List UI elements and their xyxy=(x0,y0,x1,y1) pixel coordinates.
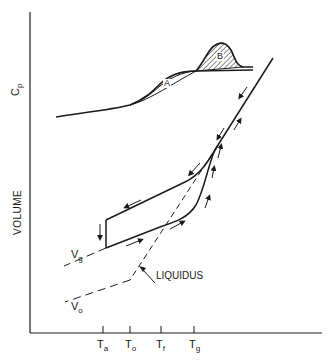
cp-baseline-tail xyxy=(196,70,253,71)
region-a-label: A xyxy=(163,79,171,88)
axes xyxy=(30,12,322,333)
cooling-curve xyxy=(106,145,218,220)
tick-label-tf: Tf xyxy=(156,338,165,353)
reheating-curve xyxy=(106,145,218,248)
arrow-up-4 xyxy=(205,197,209,208)
cp-main: C xyxy=(9,88,21,96)
cp-axis-label: Cp xyxy=(9,84,24,96)
tick-label-to: To xyxy=(125,338,136,353)
tick-ta-sub: a xyxy=(104,344,108,353)
tick-to-sub: o xyxy=(132,344,136,353)
cp-sub: p xyxy=(15,84,24,88)
arrow-up-1 xyxy=(234,120,240,130)
tick-to-main: T xyxy=(125,338,132,350)
liquidus-pointer-head xyxy=(139,266,146,272)
arrow-right-1 xyxy=(126,240,141,246)
tick-label-tg: Tg xyxy=(189,338,200,353)
tick-ta-main: T xyxy=(97,338,104,350)
liquidus-pointer xyxy=(143,270,155,283)
arrow-down-1 xyxy=(240,87,247,97)
tick-tf-main: T xyxy=(156,338,163,350)
tick-tf-sub: f xyxy=(163,344,165,353)
arrow-up-3 xyxy=(212,168,214,178)
vo-dashed xyxy=(65,280,130,302)
vg-sub: g xyxy=(78,254,82,263)
region-b-label: B xyxy=(216,52,224,61)
volume-axis-label: VOLUME xyxy=(12,190,23,235)
liquidus-label: LIQUIDUS xyxy=(156,270,203,281)
vg-label: Vg xyxy=(71,248,83,263)
arrow-up-2 xyxy=(218,146,221,158)
vo-sub: o xyxy=(78,306,82,315)
vo-label: Vo xyxy=(71,300,83,315)
tick-tg-main: T xyxy=(189,338,196,350)
diagram-canvas xyxy=(0,0,333,362)
glass-transition-diagram: Cp VOLUME Ta To Tf Tg Vg Vo LIQUIDUS A B xyxy=(0,0,333,362)
tick-label-ta: Ta xyxy=(97,338,108,353)
tick-tg-sub: g xyxy=(196,344,200,353)
